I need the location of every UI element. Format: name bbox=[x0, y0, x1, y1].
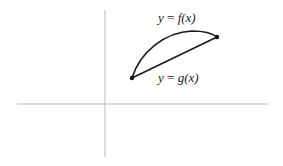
label-g-eq: = bbox=[164, 70, 178, 85]
label-g: y = g(x) bbox=[156, 70, 199, 85]
function-region-diagram: y = f(x) y = g(x) bbox=[0, 0, 283, 166]
label-f: y = f(x) bbox=[156, 10, 196, 25]
left-intersection-point bbox=[130, 76, 134, 80]
label-f-arg: (x) bbox=[181, 10, 195, 25]
label-f-eq: = bbox=[164, 10, 178, 25]
right-intersection-point bbox=[215, 35, 219, 39]
label-g-arg: (x) bbox=[184, 70, 198, 85]
